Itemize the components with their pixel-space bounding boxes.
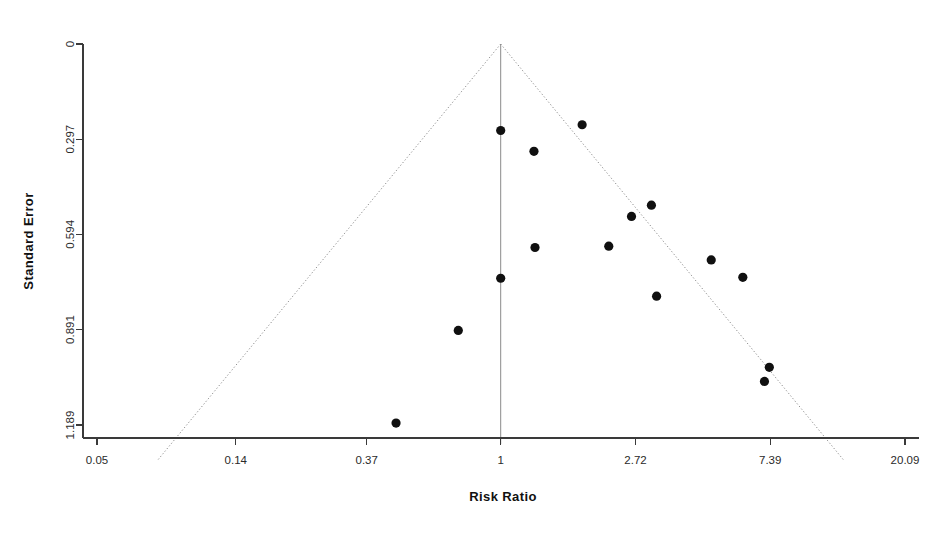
y-axis-tick-label: 0.891 [64,315,76,344]
data-point [496,126,505,135]
funnel-plot-canvas: 0.050.140.3712.727.3920.09 00.2970.5940.… [0,0,942,537]
data-point [454,326,463,335]
x-axis-title: Risk Ratio [469,489,537,504]
x-axis-tick-label: 0.37 [356,454,378,466]
data-point [647,201,656,210]
data-point [738,273,747,282]
data-point [652,292,661,301]
x-axis-tick-label: 7.39 [759,454,781,466]
data-point [530,243,539,252]
data-point [765,363,774,372]
data-point [707,255,716,264]
y-axis-tick-label: 0 [64,41,76,47]
data-point [627,212,636,221]
y-axis-tick-label: 0.594 [64,219,76,248]
x-axis-tick-label: 0.14 [225,454,248,466]
funnel-plot-figure: 0.050.140.3712.727.3920.09 00.2970.5940.… [0,0,942,537]
y-axis-tick-label: 0.297 [64,125,76,154]
y-axis-tick-labels: 00.2970.5940.8911.189 [64,41,76,440]
data-point [529,147,538,156]
x-axis-tick-label: 1 [497,454,503,466]
axes-group [76,44,919,445]
data-point [578,120,587,129]
funnel-right-limit [501,44,844,461]
funnel-left-limit [157,44,500,461]
x-axis-tick-labels: 0.050.140.3712.727.3920.09 [86,454,920,466]
y-axis-tick-label: 1.189 [64,411,76,440]
x-axis-tick-label: 2.72 [624,454,646,466]
data-point [391,418,400,427]
data-point [604,242,613,251]
data-point [760,377,769,386]
data-points-group [391,120,773,428]
x-axis-tick-label: 20.09 [891,454,920,466]
x-axis-tick-label: 0.05 [86,454,108,466]
data-point [496,274,505,283]
y-axis-title: Standard Error [21,192,36,289]
